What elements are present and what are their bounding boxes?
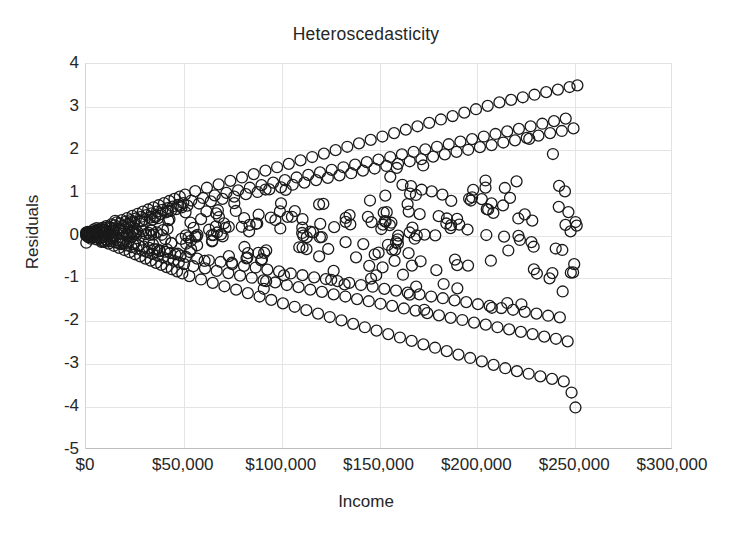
scatter-point xyxy=(261,245,272,256)
scatter-point xyxy=(463,260,474,271)
scatter-point xyxy=(418,160,429,171)
scatter-point xyxy=(513,213,524,224)
scatter-point xyxy=(527,215,538,226)
x-tick-label: $100,000 xyxy=(245,455,316,475)
scatter-point xyxy=(397,269,408,280)
scatter-point xyxy=(289,301,300,312)
scatter-point xyxy=(330,145,341,156)
scatter-point xyxy=(437,189,448,200)
y-tick-label: 0 xyxy=(39,225,85,245)
scatter-point xyxy=(354,138,365,149)
y-tick-label: -4 xyxy=(39,396,85,416)
scatter-point xyxy=(437,293,448,304)
scatter-point xyxy=(309,272,320,283)
scatter-point xyxy=(272,162,283,173)
scatter-point xyxy=(324,312,335,323)
scatter-point xyxy=(568,123,579,134)
scatter-point xyxy=(488,359,499,370)
scatter-point xyxy=(431,265,442,276)
scatter-point xyxy=(435,114,446,125)
scatter-point xyxy=(293,282,304,293)
scatter-point xyxy=(560,113,571,124)
plot-area xyxy=(85,63,672,449)
scatter-point xyxy=(537,118,548,129)
scatter-point xyxy=(492,322,503,333)
scatter-point xyxy=(469,317,480,328)
scatter-point xyxy=(572,80,583,91)
scatter-point xyxy=(230,206,241,217)
scatter-point xyxy=(502,126,513,137)
scatter-point xyxy=(225,175,236,186)
scatter-point xyxy=(513,123,524,134)
scatter-point xyxy=(373,154,384,165)
scatter-point xyxy=(481,230,492,241)
scatter-point xyxy=(277,298,288,309)
scatter-point xyxy=(394,332,405,343)
x-tick-label: $50,000 xyxy=(152,455,213,475)
y-tick-label: -2 xyxy=(39,310,85,330)
scatter-point xyxy=(323,243,334,254)
scatter-point xyxy=(219,281,230,292)
scatter-point xyxy=(266,294,277,305)
scatter-point xyxy=(430,230,441,241)
scatter-point xyxy=(239,242,250,253)
scatter-point xyxy=(364,260,375,271)
scatter-point xyxy=(389,255,400,266)
scatter-point xyxy=(402,199,413,210)
scatter-point xyxy=(499,231,510,242)
scatter-point xyxy=(418,339,429,350)
scatter-point xyxy=(494,97,505,108)
scatter-point xyxy=(566,387,577,398)
scatter-point xyxy=(379,283,390,294)
scatter-point xyxy=(328,289,339,300)
scatter-point xyxy=(369,249,380,260)
scatter-point xyxy=(283,158,294,169)
scatter-point xyxy=(406,260,417,271)
scatter-point xyxy=(422,308,433,319)
scatter-point xyxy=(398,303,409,314)
scatter-point xyxy=(517,92,528,103)
scatter-point xyxy=(348,318,359,329)
x-tick-label: $250,000 xyxy=(539,455,610,475)
scatter-point xyxy=(260,165,271,176)
scatter-point xyxy=(301,244,312,255)
scatter-point xyxy=(359,322,370,333)
scatter-point xyxy=(547,149,558,160)
scatter-point xyxy=(504,324,515,335)
scatter-point xyxy=(478,131,489,142)
scatter-point xyxy=(365,195,376,206)
scatter-point xyxy=(510,135,521,146)
scatter-point xyxy=(340,291,351,302)
scatter-point xyxy=(201,206,212,217)
scatter-point xyxy=(503,245,514,256)
scatter-point xyxy=(447,111,458,122)
scatter-point xyxy=(246,272,257,283)
x-tick-label: $300,000 xyxy=(637,455,708,475)
scatter-points-layer xyxy=(86,64,671,448)
x-axis-label: Income xyxy=(0,492,732,512)
scatter-point xyxy=(570,402,581,413)
scatter-point xyxy=(285,268,296,279)
scatter-point xyxy=(313,308,324,319)
scatter-point xyxy=(237,172,248,183)
scatter-point xyxy=(545,128,556,139)
scatter-point xyxy=(471,104,482,115)
scatter-point xyxy=(424,117,435,128)
y-tick-label: 2 xyxy=(39,139,85,159)
scatter-point xyxy=(380,190,391,201)
scatter-point xyxy=(377,262,388,273)
scatter-point xyxy=(363,296,374,307)
scatter-point xyxy=(476,356,487,367)
scatter-point xyxy=(389,128,400,139)
scatter-point xyxy=(474,142,485,153)
scatter-point xyxy=(426,291,437,302)
scatter-point xyxy=(433,310,444,321)
scatter-point xyxy=(274,206,285,217)
scatter-point xyxy=(305,284,316,295)
scatter-point xyxy=(527,329,538,340)
scatter-point xyxy=(525,121,536,132)
scatter-point xyxy=(351,252,362,263)
scatter-point xyxy=(387,300,398,311)
scatter-point xyxy=(441,346,452,357)
scatter-point xyxy=(336,315,347,326)
